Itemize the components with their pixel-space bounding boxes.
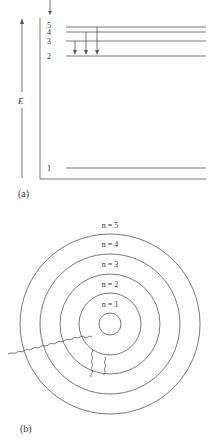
- orbit-label-n2: n = 2: [102, 280, 119, 289]
- arrowhead-icon: [95, 50, 99, 55]
- level-label-2: 2: [47, 52, 51, 61]
- panel-b-label: (b): [20, 423, 32, 434]
- orbit-label-n4: n = 4: [102, 240, 119, 249]
- level-label-3: 3: [47, 37, 51, 46]
- diagram-canvas: 5 4 3 2 1 E n = 5 n = 4 n = 3 n = 2 n = …: [0, 0, 219, 440]
- photon-wave-short: [104, 357, 106, 375]
- panel-a-label: (a): [18, 188, 29, 199]
- orbit-label-n5: n = 5: [102, 221, 119, 230]
- level-label-4: 4: [47, 28, 51, 37]
- orbit-label-n1: n = 1: [102, 300, 119, 309]
- photon-wave-mid: [91, 349, 93, 377]
- arrowhead-icon: [84, 50, 88, 55]
- level-label-1: 1: [47, 164, 51, 173]
- arrowhead-icon: [73, 50, 77, 55]
- energy-axis-label: E: [17, 96, 24, 106]
- energy-axis-arrowhead-icon: [20, 18, 24, 24]
- nucleus: [99, 313, 121, 335]
- orbit-n3: [40, 254, 180, 394]
- photon-wave-long: [8, 337, 80, 354]
- orbit-label-n3: n = 3: [102, 260, 119, 269]
- orbit-n2: [60, 274, 160, 374]
- incoming-arrowhead-icon: [48, 11, 52, 15]
